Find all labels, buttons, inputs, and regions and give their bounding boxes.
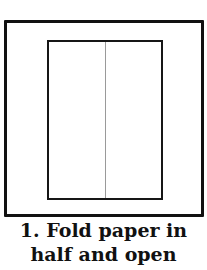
caption-line-1: 1. Fold paper in [0,218,207,242]
step-caption: 1. Fold paper in half and open [0,218,207,266]
fold-line [105,42,106,198]
caption-line-2: half and open [0,242,207,266]
